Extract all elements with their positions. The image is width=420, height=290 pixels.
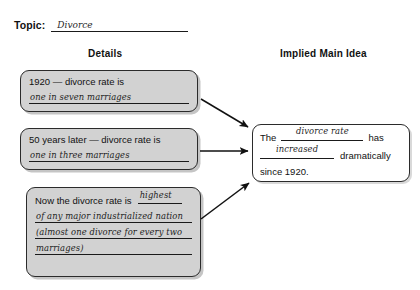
main-idea-box[interactable]: The divorce rate has increased dramatica… [252,124,410,182]
detail-box-1[interactable]: 1920 — divorce rate is one in seven marr… [20,70,198,112]
detail-3-answer-1: of any major industrialized nation [36,211,183,221]
topic-label: Topic: [14,19,45,32]
arrow-detail-1-to-main [201,99,248,127]
detail-3-answer-blank-1[interactable]: of any major industrialized nation [35,208,192,223]
detail-2-prompt: 50 years later — divorce rate is [29,133,189,146]
detail-3-answer-blank-3[interactable]: marriages) [35,240,192,255]
main-idea-answer-1: divorce rate [296,123,349,139]
main-idea-text-3: dramatically [340,148,391,164]
main-idea-line-3: since 1920. [260,164,402,180]
main-idea-answer-2: increased [276,141,318,157]
detail-3-inline-blank[interactable]: highest [138,192,182,204]
main-idea-column-heading: Implied Main Idea [280,48,367,59]
detail-3-inline-answer: highest [140,189,172,202]
detail-3-prompt: Now the divorce rate is highest [35,192,192,207]
details-column-heading: Details [88,48,122,59]
detail-3-answer-3: marriages) [36,243,84,253]
topic-answer: Divorce [57,20,92,30]
main-idea-text-4: since 1920. [260,164,309,180]
main-idea-line-2: increased dramatically [260,146,402,164]
detail-2-prompt-text: 50 years later — divorce rate is [29,133,160,146]
detail-1-prompt-text: 1920 — divorce rate is [29,75,124,88]
detail-3-answer-blank-2[interactable]: (almost one divorce for every two [35,224,192,239]
detail-1-prompt: 1920 — divorce rate is [29,75,189,88]
worksheet-page: Topic: Divorce Details Implied Main Idea… [0,0,420,290]
main-idea-blank-2[interactable]: increased [260,146,334,159]
main-idea-text-1: The [260,130,276,146]
detail-1-answer: one in seven marriages [30,92,131,102]
main-idea-blank-1[interactable]: divorce rate [281,128,363,141]
detail-2-answer: one in three marriages [30,150,130,160]
detail-box-3[interactable]: Now the divorce rate is highest of any m… [26,187,201,277]
detail-3-answer-2: (almost one divorce for every two [36,227,182,237]
detail-box-2[interactable]: 50 years later — divorce rate is one in … [20,128,198,170]
detail-3-prompt-text: Now the divorce rate is [35,194,132,207]
detail-1-answer-blank[interactable]: one in seven marriages [29,89,189,104]
topic-input-blank[interactable]: Divorce [51,18,188,32]
arrow-detail-3-to-main [201,183,249,219]
detail-2-answer-blank[interactable]: one in three marriages [29,147,189,162]
main-idea-text-2: has [368,130,383,146]
topic-row: Topic: Divorce [14,18,188,32]
